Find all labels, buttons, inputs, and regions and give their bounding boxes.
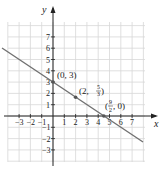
- y-tick-label: 5: [46, 56, 50, 65]
- y-tick-label: 4: [46, 67, 50, 76]
- coordinate-plot: −3−2−11234567−3−2−11234567 x y (0, 3) (2…: [0, 0, 164, 172]
- y-tick-label: −1: [42, 123, 51, 132]
- y-axis-label: y: [41, 4, 47, 15]
- y-tick-label: 6: [46, 44, 50, 53]
- x-tick-label: −3: [15, 118, 24, 127]
- y-tick-label: −3: [42, 146, 51, 155]
- x-tick-label: 1: [62, 118, 66, 127]
- y-tick-label: −2: [42, 135, 51, 144]
- svg-text:9: 9: [109, 99, 112, 105]
- point-label-9-2-0: ( 9 2 , 0): [105, 99, 125, 113]
- svg-text:(: (: [105, 101, 108, 111]
- x-tick-label: 7: [130, 118, 134, 127]
- svg-text:, 0): , 0): [113, 101, 125, 111]
- tick-labels: −3−2−11234567−3−2−11234567: [15, 33, 134, 155]
- point-2-5-3: [74, 95, 78, 99]
- y-tick-label: 1: [46, 101, 50, 110]
- plotted-line: [2, 48, 143, 142]
- point-9-2-0: [102, 114, 106, 118]
- grid: [8, 22, 145, 162]
- y-tick-label: 7: [46, 33, 50, 42]
- svg-text:3: 3: [97, 91, 100, 97]
- point-label-2-5-3: (2, 5 3 ): [79, 84, 104, 97]
- point-label-0-3: (0, 3): [57, 70, 77, 80]
- y-axis-arrow-icon: [51, 6, 56, 13]
- y-tick-label: 2: [46, 89, 50, 98]
- x-tick-label: 2: [74, 118, 78, 127]
- x-tick-label: −2: [26, 118, 35, 127]
- point-0-3: [51, 80, 55, 84]
- x-tick-label: 3: [85, 118, 89, 127]
- x-axis-label: x: [153, 118, 159, 129]
- svg-text:5: 5: [97, 84, 100, 90]
- x-tick-label: 4: [96, 118, 100, 127]
- svg-text:(2,: (2,: [79, 86, 89, 96]
- svg-text:): ): [101, 86, 104, 96]
- svg-text:2: 2: [109, 107, 112, 113]
